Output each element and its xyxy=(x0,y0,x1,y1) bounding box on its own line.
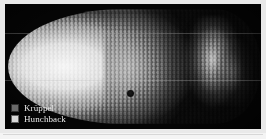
scanline-lower xyxy=(5,80,261,81)
legend-item-hunchback: Hunchback xyxy=(11,114,66,124)
figure-root: Krüppel Hunchback xyxy=(0,0,266,139)
micrograph-canvas: Krüppel Hunchback xyxy=(5,4,261,129)
hunchback-swatch xyxy=(11,115,19,123)
micrograph-plate-frame: Krüppel Hunchback xyxy=(0,0,266,133)
legend: Krüppel Hunchback xyxy=(11,103,66,125)
kruppel-swatch xyxy=(11,104,19,112)
scanline-upper xyxy=(5,33,261,34)
page-rule xyxy=(3,134,263,135)
legend-label-kruppel: Krüppel xyxy=(24,103,54,113)
legend-item-kruppel: Krüppel xyxy=(11,103,66,113)
legend-label-hunchback: Hunchback xyxy=(24,114,66,124)
